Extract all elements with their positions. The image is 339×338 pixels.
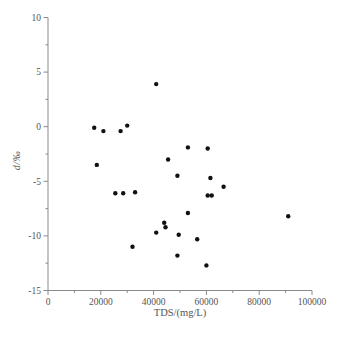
data-point bbox=[95, 163, 99, 167]
y-tick-label: -10 bbox=[28, 231, 41, 241]
data-point bbox=[175, 253, 179, 257]
y-tick-label: -15 bbox=[28, 286, 41, 296]
data-point bbox=[177, 233, 181, 237]
data-point bbox=[154, 230, 158, 234]
data-point bbox=[113, 191, 117, 195]
data-point bbox=[221, 185, 225, 189]
data-point bbox=[162, 221, 166, 225]
data-point bbox=[166, 157, 170, 161]
data-point bbox=[286, 214, 290, 218]
data-point bbox=[118, 129, 122, 133]
data-point bbox=[186, 211, 190, 215]
y-tick-label: 5 bbox=[36, 67, 41, 77]
data-point bbox=[130, 245, 134, 249]
data-point bbox=[163, 225, 167, 229]
x-tick-label: 20000 bbox=[89, 297, 113, 307]
x-tick-label: 60000 bbox=[195, 297, 219, 307]
y-tick-label: -5 bbox=[33, 177, 41, 187]
data-point bbox=[175, 174, 179, 178]
data-point bbox=[92, 126, 96, 130]
x-tick-label: 0 bbox=[46, 297, 51, 307]
data-point bbox=[121, 191, 125, 195]
y-tick-label: 10 bbox=[32, 13, 42, 23]
data-point bbox=[154, 82, 158, 86]
data-point bbox=[206, 193, 210, 197]
data-point bbox=[133, 190, 137, 194]
data-point bbox=[195, 237, 199, 241]
y-tick-label: 0 bbox=[36, 122, 41, 132]
x-tick-label: 100000 bbox=[298, 297, 327, 307]
data-point bbox=[206, 146, 210, 150]
figure-canvas: 0200004000060000800001000001050-5-10-15 … bbox=[0, 0, 339, 338]
data-point bbox=[186, 145, 190, 149]
data-point bbox=[101, 129, 105, 133]
data-point bbox=[204, 263, 208, 267]
data-point bbox=[125, 123, 129, 127]
data-point bbox=[210, 193, 214, 197]
x-tick-label: 40000 bbox=[142, 297, 166, 307]
data-point bbox=[208, 176, 212, 180]
scatter-chart: 0200004000060000800001000001050-5-10-15 bbox=[0, 0, 339, 338]
x-tick-label: 80000 bbox=[247, 297, 271, 307]
